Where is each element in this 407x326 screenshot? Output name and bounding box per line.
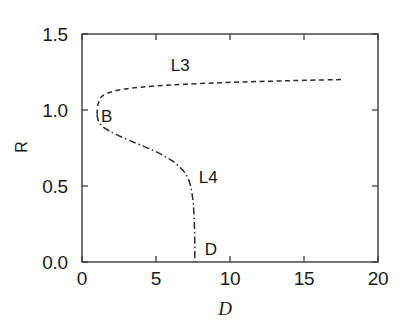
- tick-marks: [82, 34, 378, 262]
- bifurcation-diagram-figure: 1.5 1.0 0.5 0.0 0 5 10 15 20 R D L3 B L4…: [0, 0, 407, 326]
- series-curve-l4: [97, 115, 195, 262]
- xtick-label-2: 10: [210, 268, 250, 290]
- curve-label-d: D: [205, 240, 217, 260]
- x-axis-title: D: [205, 298, 245, 320]
- ytick-label-2: 1.0: [18, 100, 68, 122]
- axes-frame: [82, 34, 378, 262]
- xtick-label-0: 0: [62, 268, 102, 290]
- y-axis-title: R: [13, 127, 31, 167]
- ytick-label-1: 0.5: [18, 176, 68, 198]
- curve-label-l3: L3: [171, 56, 190, 76]
- xtick-label-1: 5: [136, 268, 176, 290]
- ytick-label-3: 1.5: [18, 24, 68, 46]
- curve-label-l4: L4: [199, 168, 218, 188]
- xtick-label-4: 20: [358, 268, 398, 290]
- xtick-label-3: 15: [284, 268, 324, 290]
- data-series-group: [97, 80, 341, 262]
- series-curve-l3: [97, 80, 341, 115]
- curve-label-b: B: [101, 107, 112, 127]
- ytick-label-0: 0.0: [18, 252, 68, 274]
